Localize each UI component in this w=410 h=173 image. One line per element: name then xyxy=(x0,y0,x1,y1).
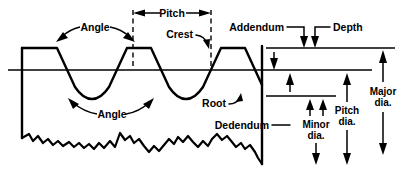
dedendum-dimension-group xyxy=(286,73,294,92)
pitch-arrow-left xyxy=(133,10,145,17)
screw-thread-diagram: Pitch Angle Angle Crest xyxy=(0,0,410,173)
depth-callout-group: Depth xyxy=(311,21,363,48)
minor-dia-dimension-group: Minor dia. xyxy=(302,99,329,165)
pitch-dia-arrow-down xyxy=(343,153,351,165)
addendum-arrow xyxy=(300,36,308,48)
angle-bottom-arrow-right xyxy=(143,98,154,109)
addendum-callout-group: Addendum xyxy=(229,21,308,48)
dedendum-label: Dedendum xyxy=(215,119,269,131)
thread-profile-group xyxy=(22,46,262,164)
crest-label: Crest xyxy=(166,28,193,40)
root-label: Root xyxy=(202,97,226,109)
root-arrow xyxy=(236,93,243,102)
depth-label: Depth xyxy=(333,21,363,33)
addendum-label: Addendum xyxy=(229,21,284,33)
root-callout-group: Root xyxy=(202,93,243,109)
minor-dia-label-line1: Minor xyxy=(302,119,329,130)
addendum-dim-arrow-down xyxy=(270,58,278,70)
major-dia-arrow-down xyxy=(379,143,387,155)
major-dia-dimension-group: Major dia. xyxy=(370,50,397,155)
minor-dia-arrow-up xyxy=(306,99,314,110)
pitch-dia-arrow-up xyxy=(343,73,351,85)
dedendum-dim-arrow-up xyxy=(286,73,294,85)
crest-arrow xyxy=(203,39,210,49)
break-line xyxy=(22,133,262,164)
crest-callout-group: Crest xyxy=(166,28,210,49)
minor-dia-arrow-down xyxy=(312,153,320,165)
addendum-dimension-group xyxy=(270,52,278,70)
major-dia-label-line1: Major xyxy=(370,86,397,97)
angle-top-label: Angle xyxy=(80,21,109,33)
thread-drawing-canvas: Pitch Angle Angle Crest xyxy=(0,0,410,173)
angle-bottom-arrow-left xyxy=(68,98,79,109)
dedendum-callout-group: Dedendum xyxy=(215,119,290,131)
major-dia-label-line2: dia. xyxy=(374,97,391,108)
angle-bottom-dimension-group: Angle xyxy=(68,98,154,120)
pitch-arrow-right xyxy=(199,10,211,17)
depth-arrow xyxy=(311,36,319,48)
minor-dia-label-line2: dia. xyxy=(307,130,324,141)
pitch-dia-label-line2: dia. xyxy=(338,116,355,127)
pitch-dia-dimension-group: Pitch dia. xyxy=(335,73,359,165)
angle-bottom-label: Angle xyxy=(97,108,126,120)
angle-top-dimension-group: Angle xyxy=(56,21,135,42)
pitch-dia-label-line1: Pitch xyxy=(335,105,359,116)
pitch-label: Pitch xyxy=(159,7,185,19)
minor-dia-arrow-up-2 xyxy=(319,99,327,110)
major-dia-arrow-up xyxy=(379,50,387,63)
thread-waveform xyxy=(22,48,262,99)
